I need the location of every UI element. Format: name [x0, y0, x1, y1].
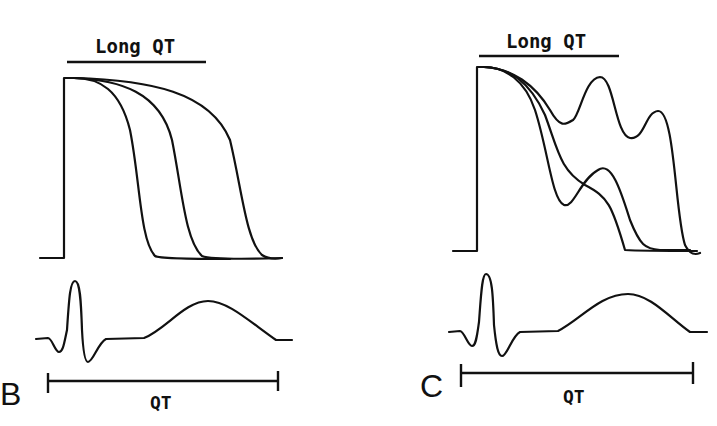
panel-b-qt-label: QT [150, 392, 172, 413]
panel-c: Long QT QT C [420, 30, 707, 407]
panel-c-ap-1 [453, 67, 690, 251]
panel-c-condition-label: Long QT [506, 30, 586, 52]
panel-b-ecg [36, 281, 292, 362]
panel-c-letter: C [420, 368, 443, 404]
panel-b-letter: B [0, 376, 21, 412]
panel-b: Long QT QT B [0, 35, 292, 413]
panel-c-qt-label: QT [563, 386, 585, 407]
panel-c-ap-2 [484, 67, 697, 251]
figure-canvas: Long QT QT B Long QT QT C [0, 0, 717, 426]
panel-b-condition-label: Long QT [95, 35, 175, 57]
panel-c-ecg [449, 274, 707, 356]
panel-c-ap-3 [484, 67, 700, 254]
